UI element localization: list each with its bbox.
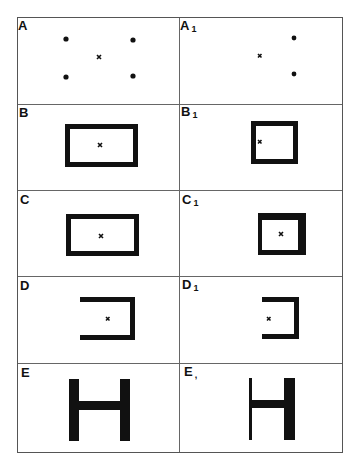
panel-e1-letter-h	[249, 378, 295, 440]
figure-shapes	[0, 0, 358, 465]
cross-icon	[98, 143, 102, 147]
cross-icon	[97, 55, 101, 59]
cross-icon	[258, 140, 262, 144]
cross-icon	[267, 317, 271, 321]
cross-icon	[279, 232, 283, 236]
cross-icon	[99, 234, 103, 238]
cross-icon	[106, 317, 110, 321]
panel-e-letter-h	[69, 379, 130, 441]
cross-icon	[258, 54, 262, 58]
panel-a1-shape	[292, 36, 297, 77]
